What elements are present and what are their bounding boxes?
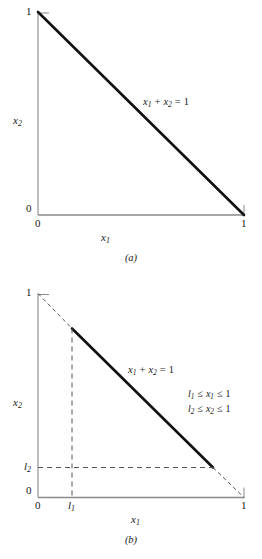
constraint-row-x1: l1≤x1≤1 <box>188 388 230 403</box>
equation-annotation-a: x1+x2=1 <box>143 97 189 109</box>
x-tick-label-max-a: 1 <box>241 218 247 229</box>
y-tick-label-max-a: 1 <box>26 6 32 17</box>
y-axis-title-sub-b: 2 <box>18 401 22 410</box>
y-tick-label-max-b: 1 <box>26 287 32 298</box>
eq-a-plus: + <box>151 96 163 107</box>
eq-a-equals: = <box>172 96 184 107</box>
y-tick-label-origin-a: 0 <box>26 203 32 214</box>
caption-a: (a) <box>0 252 262 263</box>
x-axis-title-a: x1 <box>101 232 110 245</box>
eq-a-rhs: 1 <box>184 96 189 107</box>
x-tick-label-origin-a: 0 <box>35 218 41 229</box>
x-axis-title-sub-a: 1 <box>106 236 110 245</box>
x-tick-label-l1: l1 <box>68 500 75 513</box>
leq-icon-3: ≤ <box>194 403 206 414</box>
eq-b-rhs: 1 <box>169 364 174 375</box>
panel-b: 1 0 l2 0 l1 1 x2 x1 x1+x2=1 l1≤x1≤1 l2≤x… <box>0 280 262 559</box>
leq-icon-2: ≤ <box>214 388 226 399</box>
constraint-row-x2: l2≤x2≤1 <box>188 403 230 418</box>
plot-a-canvas <box>0 0 262 280</box>
x-tick-label-origin-b: 0 <box>35 500 41 511</box>
panel-a: 1 0 0 1 x2 x1 x1+x2=1 (a) <box>0 0 262 280</box>
y-axis-title-b: x2 <box>13 397 22 410</box>
eq-b-equals: = <box>157 364 169 375</box>
x-bound-sub-l1: 1 <box>71 504 75 513</box>
x-axis-title-sub-b: 1 <box>136 518 140 527</box>
y-tick-label-l2: l2 <box>24 461 31 474</box>
y-bound-sub-l2: 2 <box>27 465 31 474</box>
equation-annotation-b: x1+x2=1 <box>128 365 174 377</box>
eq-b-plus: + <box>136 364 148 375</box>
leq-icon-4: ≤ <box>214 403 226 414</box>
leq-icon-1: ≤ <box>194 388 206 399</box>
y-axis-title-sub-a: 2 <box>18 119 22 128</box>
x-axis-title-b: x1 <box>131 514 140 527</box>
x-tick-label-max-b: 1 <box>241 500 247 511</box>
constraint-bounds-block: l1≤x1≤1 l2≤x2≤1 <box>188 388 230 418</box>
y-axis-title-a: x2 <box>13 115 22 128</box>
caption-b: (b) <box>0 534 262 545</box>
bound-upper-x2: 1 <box>225 403 230 414</box>
bound-upper-x1: 1 <box>225 388 230 399</box>
constraint-line-a <box>38 12 244 215</box>
y-tick-label-origin-b: 0 <box>26 485 32 496</box>
constraint-dashed-lower-b <box>213 468 244 498</box>
constraint-dashed-upper-b <box>38 294 72 329</box>
